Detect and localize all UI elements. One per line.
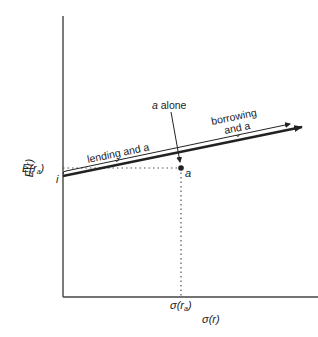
y-tick-expected-return: E(ra) [22, 162, 45, 175]
x-tick-risk: σ(ra) [170, 299, 192, 312]
portfolio-point-a [178, 165, 184, 171]
lending-borrowing-bracket [63, 124, 290, 174]
intercept-label-i: i [56, 173, 59, 185]
risk-return-diagram: E(r) σ(r) E(ra) σ(ra) i a a alone lendin… [0, 0, 318, 337]
a-alone-label: a alone [152, 99, 187, 111]
x-axis-label: σ(r) [202, 313, 220, 325]
point-label-a: a [185, 167, 191, 179]
